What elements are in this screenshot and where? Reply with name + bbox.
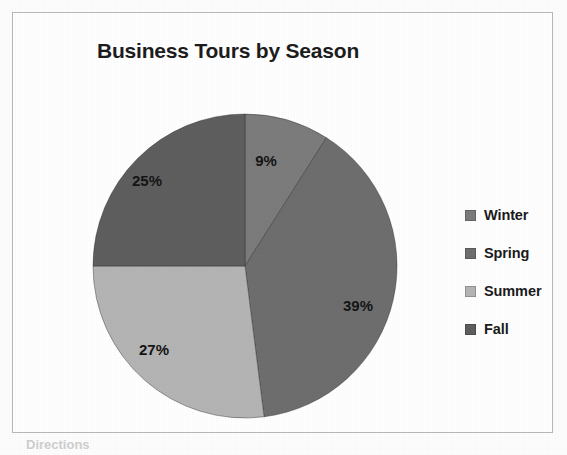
legend-item-winter[interactable]: Winter bbox=[465, 205, 565, 225]
legend-swatch-icon-spring bbox=[465, 248, 476, 259]
legend-label-winter: Winter bbox=[484, 207, 528, 223]
cropped-caption-text: Directions bbox=[26, 437, 90, 450]
legend-label-fall: Fall bbox=[484, 321, 509, 337]
pie-slice-group bbox=[93, 114, 397, 418]
chart-frame: Business Tours by Season 9%39%27%25% Win… bbox=[12, 12, 553, 433]
legend-item-summer[interactable]: Summer bbox=[465, 281, 565, 301]
pie-data-label-fall: 25% bbox=[132, 172, 162, 189]
scanned-page: Business Tours by Season 9%39%27%25% Win… bbox=[0, 0, 567, 455]
chart-legend: Winter Spring Summer Fall bbox=[465, 205, 565, 357]
pie-data-label-winter: 9% bbox=[255, 152, 277, 169]
legend-item-fall[interactable]: Fall bbox=[465, 319, 565, 339]
legend-swatch-icon-summer bbox=[465, 286, 476, 297]
legend-label-summer: Summer bbox=[484, 283, 541, 299]
pie-data-label-summer: 27% bbox=[139, 341, 169, 358]
legend-swatch-icon-fall bbox=[465, 324, 476, 335]
pie-slice-fall[interactable] bbox=[93, 114, 245, 266]
pie-data-label-spring: 39% bbox=[343, 297, 373, 314]
legend-item-spring[interactable]: Spring bbox=[465, 243, 565, 263]
legend-label-spring: Spring bbox=[484, 245, 529, 261]
legend-swatch-icon-winter bbox=[465, 210, 476, 221]
pie-chart-svg: 9%39%27%25% bbox=[90, 111, 400, 421]
pie-chart: 9%39%27%25% bbox=[90, 111, 400, 421]
pie-slice-summer[interactable] bbox=[93, 266, 264, 418]
chart-title: Business Tours by Season bbox=[13, 39, 443, 63]
